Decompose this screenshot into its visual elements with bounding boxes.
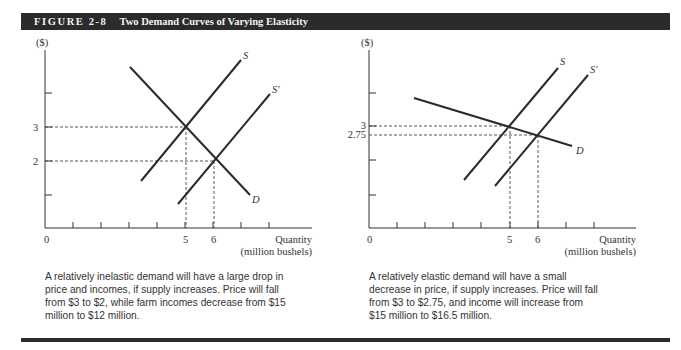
left-caption: A relatively inelastic demand will have … — [45, 270, 300, 322]
right-guide-lines — [369, 126, 538, 228]
right-y-ticks — [369, 93, 376, 195]
left-demand-curve — [130, 67, 250, 195]
left-s-prime-label: S′ — [272, 84, 280, 95]
left-y-tick-3: 3 — [33, 122, 38, 133]
right-x-ticks — [397, 222, 594, 228]
left-x-axis-label: Quantity — [275, 234, 312, 245]
right-y-axis-label: ($) — [361, 37, 374, 49]
right-y-tick-2-75: 2.75 — [348, 129, 366, 140]
right-d-label: D — [575, 145, 584, 156]
left-y-ticks — [45, 93, 52, 195]
left-y-axis-label: ($) — [36, 37, 49, 49]
left-s-label: S — [243, 50, 249, 61]
right-caption: A relatively elastic demand will have a … — [369, 270, 599, 322]
left-x-origin: 0 — [44, 234, 49, 245]
left-x-axis-unit: (million bushels) — [241, 246, 313, 258]
left-chart: ($) S S′ D 3 2 0 5 6 Quantity (mill — [33, 37, 313, 258]
right-x-axis-label: Quantity — [599, 234, 636, 245]
left-supply-curve — [141, 60, 241, 181]
right-s-prime-label: S′ — [590, 64, 598, 75]
right-chart: ($) S S′ D 3 2.75 0 5 6 Quantity (m — [348, 37, 637, 258]
right-x-tick-5: 5 — [507, 234, 512, 245]
left-x-tick-5: 5 — [183, 234, 188, 245]
right-x-tick-6: 6 — [535, 234, 540, 245]
left-x-ticks — [73, 222, 269, 228]
right-supply-curve — [464, 68, 558, 180]
right-x-axis-unit: (million bushels) — [565, 246, 637, 258]
right-x-origin: 0 — [367, 234, 372, 245]
left-supply-prime-curve — [178, 94, 270, 204]
figure-footer-bar — [21, 338, 670, 342]
left-guide-lines — [45, 127, 214, 228]
left-x-tick-6: 6 — [211, 234, 216, 245]
left-d-label: D — [251, 194, 260, 205]
right-supply-prime-curve — [495, 75, 588, 186]
right-s-label: S — [560, 56, 566, 67]
left-y-tick-2: 2 — [33, 156, 38, 167]
